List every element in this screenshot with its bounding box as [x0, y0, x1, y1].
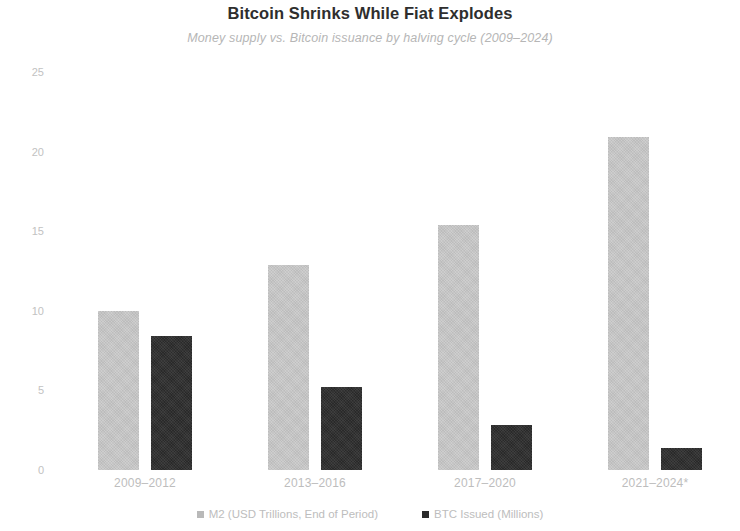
legend-item-m2[interactable]: M2 (USD Trillions, End of Period)	[197, 508, 378, 520]
chart-subtitle: Money supply vs. Bitcoin issuance by hal…	[0, 31, 740, 45]
y-axis-tick-label: 10	[32, 305, 44, 317]
x-axis-tick-label: 2013–2016	[284, 476, 346, 490]
y-axis: 0510152025	[0, 72, 52, 470]
y-axis-tick-label: 5	[38, 384, 44, 396]
plot-area	[60, 72, 740, 470]
y-axis-tick-label: 20	[32, 146, 44, 158]
bar-m2-2	[438, 225, 479, 470]
bar-m2-1	[268, 265, 309, 470]
bar-m2-0	[98, 311, 139, 470]
legend-item-btc[interactable]: BTC Issued (Millions)	[422, 508, 543, 520]
chart-legend: M2 (USD Trillions, End of Period)BTC Iss…	[0, 508, 740, 520]
legend-label: M2 (USD Trillions, End of Period)	[209, 508, 378, 520]
bar-m2-3	[608, 137, 649, 470]
bar-btc-3	[661, 448, 702, 470]
x-axis-tick-label: 2017–2020	[454, 476, 516, 490]
y-axis-tick-label: 15	[32, 225, 44, 237]
legend-swatch-icon	[197, 511, 204, 518]
bar-btc-0	[151, 336, 192, 470]
x-axis: 2009–20122013–20162017–20202021–2024*	[60, 476, 740, 498]
legend-label: BTC Issued (Millions)	[434, 508, 543, 520]
y-axis-tick-label: 25	[32, 66, 44, 78]
y-axis-tick-label: 0	[38, 464, 44, 476]
x-axis-tick-label: 2009–2012	[114, 476, 176, 490]
x-axis-tick-label: 2021–2024*	[622, 476, 689, 490]
chart-title: Bitcoin Shrinks While Fiat Explodes	[0, 4, 740, 23]
legend-swatch-icon	[422, 511, 429, 518]
bar-btc-1	[321, 387, 362, 470]
bar-chart: Bitcoin Shrinks While Fiat Explodes Mone…	[0, 0, 740, 531]
bar-btc-2	[491, 425, 532, 470]
